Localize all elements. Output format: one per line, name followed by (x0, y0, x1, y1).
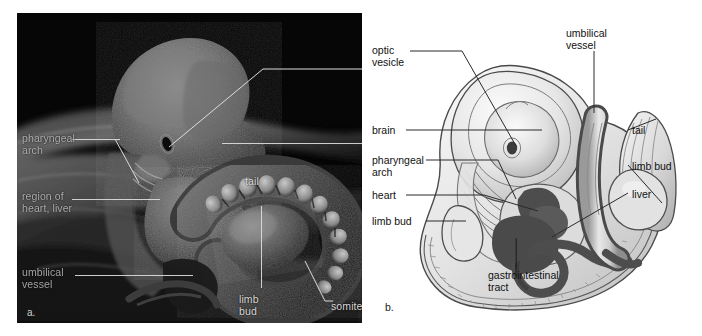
label-tail: tail (632, 124, 645, 136)
leader-gastrointestinal-tract (516, 238, 517, 269)
leader-limb-bud (261, 206, 262, 288)
leader-umbilical-vessel (75, 275, 193, 276)
sem-label-pharyngeal-arch: pharyngeal arch (22, 133, 75, 156)
sem-label-tail: tail (245, 176, 259, 188)
leader-pharyngeal-arch-elbow (115, 133, 155, 189)
label-limb-bud-left: limb bud (372, 215, 412, 227)
label-optic-vesicle: optic vesicle (372, 44, 404, 68)
panel-a-tag: a. (27, 307, 35, 318)
label-limb-bud-right: limb bud (632, 160, 672, 172)
leader-brain (222, 143, 362, 144)
panel-b-tag: b. (385, 301, 394, 313)
label-gastrointestinal-tract: gastrointestinal tract (488, 269, 559, 293)
leader-pharyngeal-arch (72, 139, 120, 140)
sem-label-somite: somite (331, 301, 362, 313)
leader-region-heart-liver (72, 199, 160, 200)
label-brain: brain (372, 124, 395, 136)
sem-label-limb-bud: limb bud (239, 294, 259, 317)
label-pharyngeal-arch: pharyngeal arch (372, 154, 424, 178)
figure-root: pharyngeal arch region of heart, liver u… (0, 0, 702, 336)
illustration-panel: optic vesicle brain pharyngeal arch hear… (366, 13, 696, 323)
label-heart: heart (372, 189, 396, 201)
leader-optic-vesicle (167, 57, 362, 153)
label-liver: liver (632, 188, 651, 200)
sem-label-umbilical-vessel: umbilical vessel (22, 267, 64, 290)
sem-label-region-heart-liver: region of heart, liver (22, 191, 72, 214)
sem-micrograph-panel: pharyngeal arch region of heart, liver u… (17, 13, 362, 323)
label-umbilical-vessel: umbilical vessel (566, 27, 607, 51)
